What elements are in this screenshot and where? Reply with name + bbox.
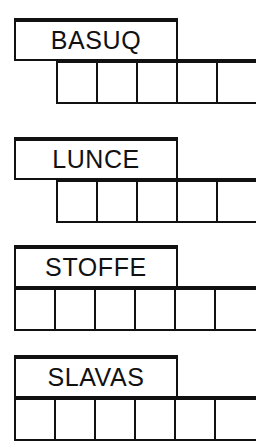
word-label-box: BASUQ bbox=[14, 18, 178, 61]
letter-cell[interactable] bbox=[136, 400, 176, 439]
word-label-box: STOFFE bbox=[14, 245, 178, 288]
letter-cell[interactable] bbox=[218, 63, 258, 102]
letter-cell[interactable] bbox=[218, 182, 258, 221]
word-label: STOFFE bbox=[45, 255, 147, 280]
letter-cell[interactable] bbox=[56, 400, 96, 439]
letter-cell[interactable] bbox=[98, 182, 138, 221]
letter-cell[interactable] bbox=[58, 63, 98, 102]
letter-cell[interactable] bbox=[56, 290, 96, 329]
answer-grid bbox=[56, 178, 256, 223]
letter-cell[interactable] bbox=[16, 290, 56, 329]
answer-grid bbox=[14, 396, 256, 441]
letter-cell[interactable] bbox=[16, 400, 56, 439]
letter-cell[interactable] bbox=[96, 290, 136, 329]
letter-cell[interactable] bbox=[216, 290, 256, 329]
letter-cell[interactable] bbox=[58, 182, 98, 221]
answer-grid bbox=[56, 59, 256, 104]
word-label: SLAVAS bbox=[47, 365, 144, 390]
letter-cell[interactable] bbox=[178, 63, 218, 102]
letter-cell[interactable] bbox=[98, 63, 138, 102]
letter-cell[interactable] bbox=[216, 400, 256, 439]
letter-cell[interactable] bbox=[176, 290, 216, 329]
word-label-box: SLAVAS bbox=[14, 355, 178, 398]
word-label: LUNCE bbox=[52, 147, 140, 172]
answer-grid bbox=[14, 286, 256, 331]
letter-cell[interactable] bbox=[136, 290, 176, 329]
word-label-box: LUNCE bbox=[14, 137, 178, 180]
letter-cell[interactable] bbox=[138, 182, 178, 221]
letter-cell[interactable] bbox=[176, 400, 216, 439]
letter-cell[interactable] bbox=[178, 182, 218, 221]
word-label: BASUQ bbox=[51, 28, 142, 53]
puzzle-sheet: BASUQLUNCESTOFFESLAVAS bbox=[0, 0, 275, 447]
letter-cell[interactable] bbox=[96, 400, 136, 439]
letter-cell[interactable] bbox=[138, 63, 178, 102]
